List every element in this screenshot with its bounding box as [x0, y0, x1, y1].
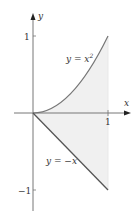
x-axis-label: x: [124, 98, 129, 108]
parabola-label: y = x2: [65, 52, 93, 64]
tick-label-y-1: 1: [24, 32, 30, 42]
graph: y x 1 1 −1 y = x2 y = −x: [0, 0, 135, 216]
tick-label-x-1: 1: [105, 117, 111, 127]
parabola-label-text: y = x: [65, 54, 89, 64]
parabola-label-sup: 2: [88, 52, 93, 59]
y-axis-label: y: [37, 11, 44, 21]
y-axis-arrow-icon: [31, 13, 36, 20]
tick-label-y-minus-1: −1: [18, 186, 31, 196]
line-label: y = −x: [45, 156, 77, 166]
x-axis-arrow-icon: [124, 111, 131, 116]
